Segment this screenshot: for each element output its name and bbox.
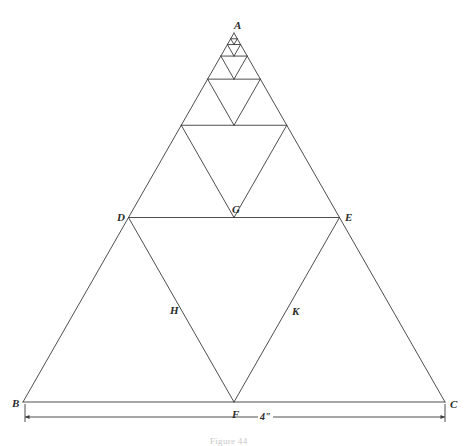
triangle-line-group — [23, 33, 445, 402]
medial-edge-left-2 — [227, 45, 234, 57]
vertex-label-G: G — [232, 204, 240, 215]
vertex-label-F: F — [232, 409, 239, 420]
medial-edge-right-4 — [234, 79, 260, 125]
vertex-label-A: A — [234, 20, 241, 31]
figure-caption: Figure 44 — [210, 437, 247, 446]
medial-edge-right-6 — [234, 218, 340, 403]
medial-edge-left-5 — [181, 125, 234, 217]
vertex-label-C: C — [450, 399, 457, 410]
vertex-label-E: E — [345, 212, 352, 223]
medial-edge-right-2 — [234, 45, 241, 57]
medial-edge-left-3 — [221, 56, 234, 79]
dimension-value-label: 4" — [258, 412, 273, 422]
vertex-label-H: H — [170, 305, 179, 316]
dim-arrow-right — [441, 415, 446, 419]
medial-edge-left-4 — [208, 79, 234, 125]
vertex-label-D: D — [117, 212, 125, 223]
medial-edge-right-1 — [234, 39, 237, 45]
medial-edge-left-1 — [231, 39, 234, 45]
medial-edge-right-3 — [234, 56, 247, 79]
vertex-label-K: K — [292, 306, 299, 317]
dim-arrow-left — [25, 415, 30, 419]
medial-edge-right-5 — [234, 125, 287, 217]
medial-edge-left-6 — [129, 218, 235, 403]
vertex-label-B: B — [12, 398, 19, 409]
